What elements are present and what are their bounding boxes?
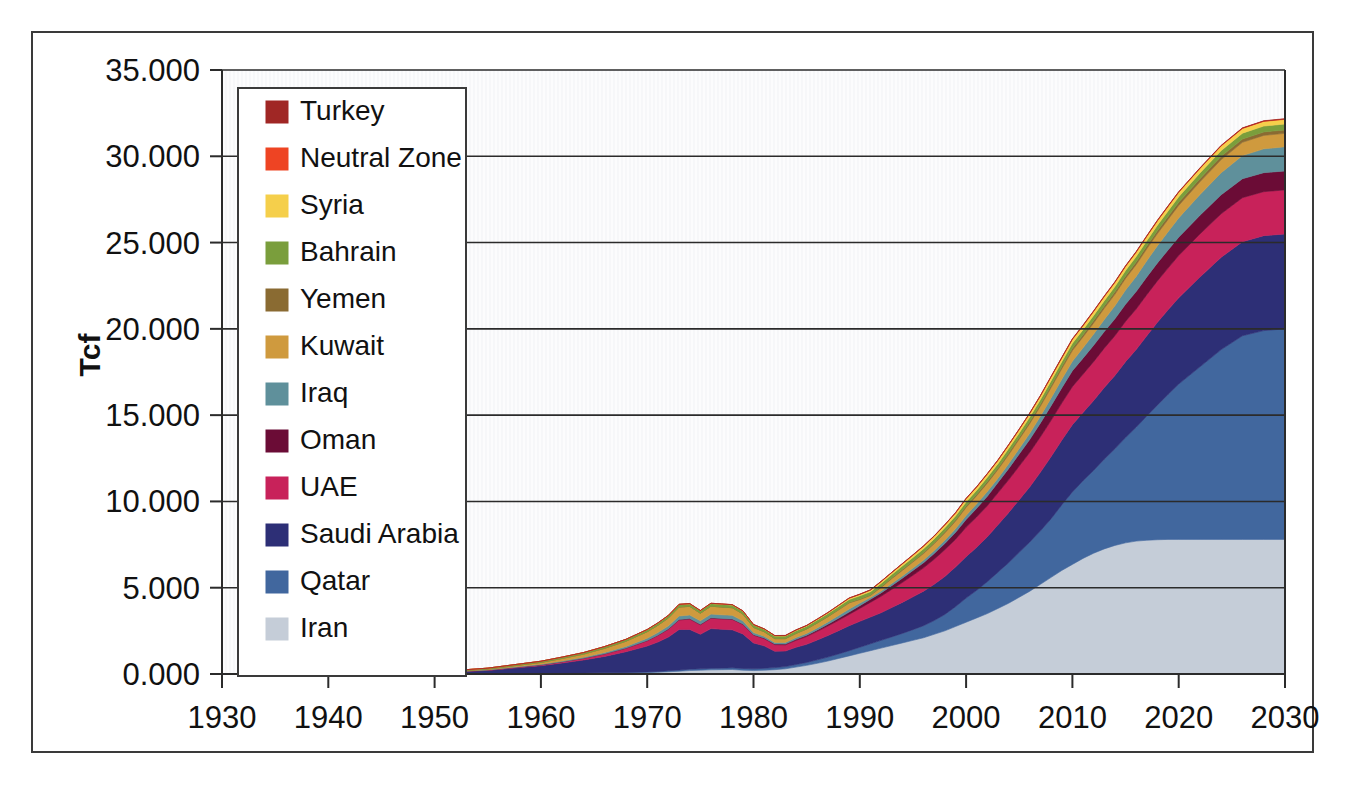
legend-swatch-yemen	[266, 289, 288, 311]
figure-container: 0.0005.00010.00015.00020.00025.00030.000…	[0, 0, 1348, 801]
x-tick-label-2020: 2020	[1144, 700, 1213, 735]
legend-swatch-saudi-arabia	[266, 524, 288, 546]
legend-label-bahrain: Bahrain	[300, 236, 397, 267]
x-tick-label-1980: 1980	[719, 700, 788, 735]
x-tick-label-1970: 1970	[613, 700, 682, 735]
legend-label-saudi-arabia: Saudi Arabia	[300, 518, 459, 549]
y-tick-label-20: 20.000	[105, 312, 200, 347]
y-tick-label-30: 30.000	[105, 139, 200, 174]
legend-label-turkey: Turkey	[300, 95, 385, 126]
legend-swatch-kuwait	[266, 336, 288, 358]
x-tick-label-1940: 1940	[294, 700, 363, 735]
x-tick-label-2010: 2010	[1038, 700, 1107, 735]
legend-swatch-oman	[266, 430, 288, 452]
legend-label-qatar: Qatar	[300, 565, 370, 596]
legend-swatch-syria	[266, 195, 288, 217]
legend-swatch-qatar	[266, 571, 288, 593]
y-tick-label-10: 10.000	[105, 484, 200, 519]
legend-label-uae: UAE	[300, 471, 358, 502]
x-tick-label-1950: 1950	[400, 700, 469, 735]
legend-swatch-uae	[266, 477, 288, 499]
legend-swatch-neutral-zone	[266, 148, 288, 170]
legend-swatch-bahrain	[266, 242, 288, 264]
legend-swatch-turkey	[266, 101, 288, 123]
legend-label-syria: Syria	[300, 189, 364, 220]
legend-label-oman: Oman	[300, 424, 376, 455]
x-tick-label-1990: 1990	[825, 700, 894, 735]
x-axis-ticks: 1930194019501960197019801990200020102020…	[188, 674, 1320, 735]
x-tick-label-2030: 2030	[1251, 700, 1320, 735]
y-tick-label-25: 25.000	[105, 226, 200, 261]
legend-swatch-iran	[266, 618, 288, 640]
stacked-area-chart: 0.0005.00010.00015.00020.00025.00030.000…	[0, 0, 1348, 801]
legend-label-yemen: Yemen	[300, 283, 386, 314]
legend-swatch-iraq	[266, 383, 288, 405]
legend-label-iraq: Iraq	[300, 377, 348, 408]
x-tick-label-2000: 2000	[932, 700, 1001, 735]
y-tick-label-0: 0.000	[122, 657, 200, 692]
legend: TurkeyNeutral ZoneSyriaBahrainYemenKuwai…	[238, 88, 466, 676]
y-axis-ticks: 0.0005.00010.00015.00020.00025.00030.000…	[105, 53, 222, 692]
y-tick-label-35: 35.000	[105, 53, 200, 88]
x-tick-label-1930: 1930	[188, 700, 257, 735]
legend-label-kuwait: Kuwait	[300, 330, 384, 361]
legend-label-iran: Iran	[300, 612, 348, 643]
y-tick-label-15: 15.000	[105, 398, 200, 433]
x-tick-label-1960: 1960	[506, 700, 575, 735]
y-tick-label-5: 5.000	[122, 571, 200, 606]
legend-label-neutral-zone: Neutral Zone	[300, 142, 462, 173]
y-axis-title: Tcf	[73, 333, 106, 377]
